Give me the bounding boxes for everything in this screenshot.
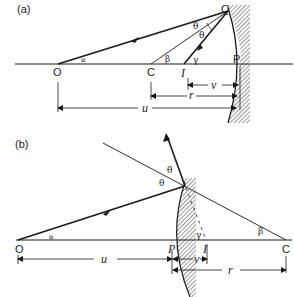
- theta1-label-a: θ: [193, 21, 198, 31]
- point-C-b: C: [282, 243, 290, 255]
- point-C-a: C: [147, 66, 155, 78]
- dim-v-label-a: v: [211, 78, 217, 92]
- panel-b-label: (b): [15, 138, 28, 150]
- theta2-label-b: θ: [159, 178, 164, 188]
- reflected-ray-a: [184, 11, 228, 64]
- point-P-a: P: [233, 53, 240, 65]
- point-O-b: O: [15, 243, 24, 255]
- dim-r-label-a: r: [189, 88, 194, 102]
- incident-ray-b: [18, 186, 185, 240]
- alpha-label-b: ∝: [48, 232, 54, 242]
- panel-a-label: (a): [17, 3, 30, 15]
- alpha-label-a: ∝: [80, 55, 86, 65]
- incident-ray-arrow-a: [131, 37, 139, 43]
- dim-u-label-a: u: [142, 101, 148, 115]
- point-P-b: P: [167, 242, 176, 256]
- dim-r-label-b: r: [228, 263, 233, 277]
- dim-u-label-b: u: [101, 252, 107, 266]
- point-Q-a: Q: [221, 3, 230, 15]
- panel-b: (b) θ θ ∝ β γ O P I C u: [15, 133, 292, 297]
- gamma-label-a: γ: [193, 55, 198, 65]
- panel-a: (a) θ θ ∝ β γ O C I P Q: [15, 3, 293, 123]
- convex-mirror-body: [177, 178, 196, 297]
- point-O-a: O: [53, 66, 62, 78]
- theta1-label-b: θ: [167, 165, 172, 175]
- theta2-label-a: θ: [199, 30, 204, 40]
- beta-label-a: β: [165, 54, 170, 64]
- normal-line-a: [151, 11, 228, 64]
- gamma-label-b: γ: [196, 230, 201, 240]
- dim-v-label-b: v: [194, 252, 200, 266]
- point-I-a: I: [180, 66, 186, 80]
- beta-label-b: β: [258, 226, 263, 236]
- optics-diagram: (a) θ θ ∝ β γ O C I P Q: [0, 0, 294, 297]
